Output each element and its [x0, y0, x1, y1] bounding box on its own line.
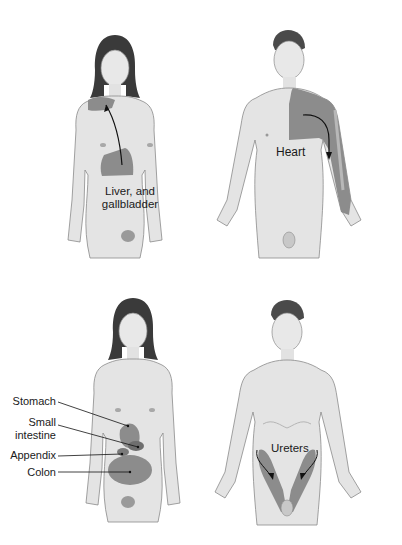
- small-intestine-area: [128, 441, 144, 451]
- label-stomach: Stomach: [0, 395, 56, 408]
- label-ureters: Ureters: [271, 442, 309, 455]
- female-figure-illustration: [0, 0, 201, 270]
- label-appendix: Appendix: [0, 449, 56, 462]
- label-line-1: Small: [0, 416, 56, 429]
- label-line-1: Liver, and: [95, 185, 165, 198]
- label-line-2: intestine: [0, 429, 56, 442]
- panel-heart: Heart: [201, 0, 402, 270]
- male-figure-illustration: [201, 290, 402, 545]
- appendix-area: [117, 448, 129, 456]
- panel-liver-gallbladder: Liver, and gallbladder: [0, 0, 201, 270]
- colon-area: [108, 455, 152, 485]
- label-colon: Colon: [0, 466, 56, 479]
- label-heart: Heart: [276, 146, 305, 159]
- male-figure-illustration: [201, 0, 402, 270]
- label-liver-gallbladder: Liver, and gallbladder: [95, 185, 165, 211]
- label-small-intestine: Small intestine: [0, 416, 56, 442]
- label-line-2: gallbladder: [95, 198, 165, 211]
- panel-ureters: Ureters: [201, 290, 402, 545]
- panel-digestive: Stomach Small intestine Appendix Colon: [0, 290, 201, 545]
